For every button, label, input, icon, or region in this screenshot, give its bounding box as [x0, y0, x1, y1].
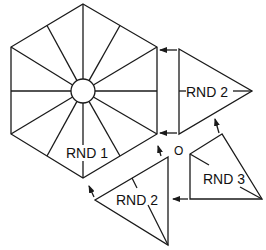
label-rnd1: RND 1 — [66, 145, 108, 161]
triangle-small-piece: RND 3 — [173, 119, 262, 199]
label-rnd2-bottom: RND 2 — [116, 192, 158, 208]
triangle-right-piece: RND 2 — [160, 49, 252, 134]
label-rnd2-right: RND 2 — [186, 84, 228, 100]
diagram-canvas: RND 1 RND 2 RND 2 RND 3 O — [0, 0, 266, 250]
center-marker: O — [174, 144, 183, 158]
center-ring — [71, 79, 95, 103]
hexagon-piece: RND 1 — [11, 4, 157, 178]
label-rnd3: RND 3 — [203, 171, 245, 187]
assembly-diagram: RND 1 RND 2 RND 2 RND 3 O — [0, 0, 266, 250]
